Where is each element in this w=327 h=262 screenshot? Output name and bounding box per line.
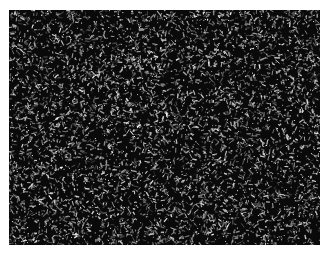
figure-caption — [2, 253, 327, 262]
texture-canvas — [9, 10, 320, 245]
micrograph-image — [9, 10, 320, 245]
